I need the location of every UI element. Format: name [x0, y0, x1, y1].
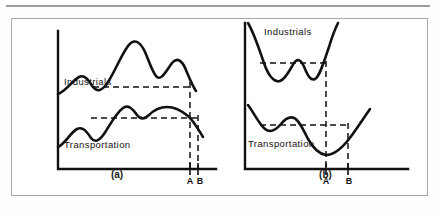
top-rule-divider — [6, 5, 430, 7]
chart-panel-b: Industrials Transportation A B (b) — [222, 19, 429, 197]
chart-a-caption: (a) — [12, 169, 222, 180]
chart-b-label-industrials: Industrials — [264, 26, 312, 37]
chart-a-label-industrials: Industrials — [64, 76, 112, 87]
figure-border-box: Industrials Transportation A B (a) — [11, 18, 428, 196]
chart-b-label-transportation: Transportation — [248, 138, 315, 149]
chart-b-caption: (b) — [222, 169, 429, 180]
chart-panel-a: Industrials Transportation A B (a) — [12, 19, 222, 197]
chart-a-label-transportation: Transportation — [64, 139, 131, 150]
figure-root: Industrials Transportation A B (a) — [0, 0, 441, 213]
